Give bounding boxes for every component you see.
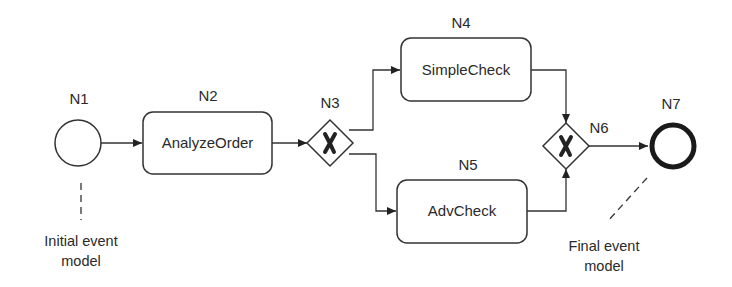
task-simple-check[interactable]: N4 SimpleCheck: [401, 14, 531, 101]
start-event-n1[interactable]: N1: [55, 90, 101, 166]
node-id-label: N6: [589, 119, 608, 136]
task-label: SimpleCheck: [422, 61, 511, 78]
process-diagram: N1 N2 AnalyzeOrder N3 N4 SimpleCheck N5 …: [0, 0, 732, 287]
annotation-text-line1: Initial event: [44, 233, 117, 249]
node-id-label: N2: [198, 87, 217, 104]
task-adv-check[interactable]: N5 AdvCheck: [397, 156, 527, 243]
node-id-label: N1: [69, 90, 88, 107]
annotation-dashed-line: [607, 178, 647, 222]
task-label: AnalyzeOrder: [162, 134, 254, 151]
edge-n3-n5: [349, 154, 396, 211]
exclusive-gateway-n3[interactable]: N3: [307, 94, 353, 166]
edge-n3-n4: [349, 70, 400, 130]
start-event-circle: [55, 120, 101, 166]
exclusive-gateway-n6[interactable]: N6: [543, 119, 609, 169]
end-event-n7[interactable]: N7: [652, 95, 694, 167]
node-id-label: N4: [451, 14, 470, 31]
initial-event-annotation: Initial event model: [44, 183, 117, 269]
node-id-label: N5: [458, 156, 477, 173]
end-event-circle: [652, 125, 694, 167]
annotation-text-line1: Final event: [569, 238, 640, 254]
annotation-text-line2: model: [61, 253, 101, 269]
edge-n5-n6: [527, 169, 566, 211]
node-id-label: N3: [320, 94, 339, 111]
edge-n4-n6: [531, 70, 566, 123]
task-analyze-order[interactable]: N2 AnalyzeOrder: [143, 87, 272, 174]
node-id-label: N7: [661, 95, 680, 112]
task-label: AdvCheck: [428, 202, 497, 219]
final-event-annotation: Final event model: [569, 178, 647, 274]
annotation-text-line2: model: [584, 258, 624, 274]
